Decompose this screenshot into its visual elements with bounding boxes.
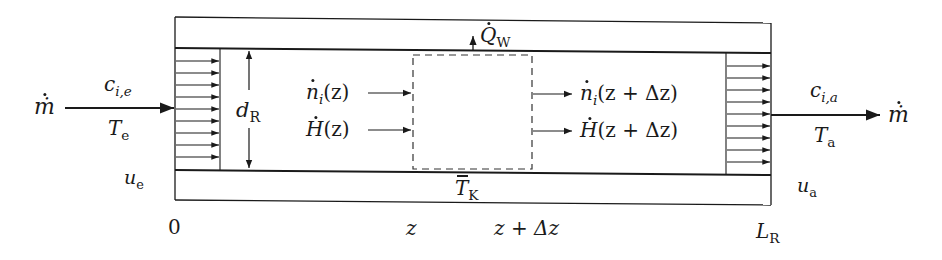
axis-origin-label: 0 bbox=[168, 217, 181, 237]
heat-flux-label: QW bbox=[480, 25, 510, 49]
inlet-concentration-label: ci,e bbox=[104, 74, 132, 98]
species-out-label: ni(z + Δz) bbox=[580, 83, 678, 107]
axis-z-plus-dz-label: z + Δz bbox=[494, 218, 559, 238]
inlet-mass-flow-label: ṁ bbox=[34, 96, 55, 118]
inner-bottom-wall bbox=[175, 170, 771, 175]
coolant-temperature-label: TK bbox=[455, 178, 479, 202]
control-volume-flux-arrows bbox=[368, 93, 572, 131]
inlet-flow-profile bbox=[176, 48, 220, 170]
outlet-temperature-label: Ta bbox=[814, 125, 835, 149]
outlet-velocity-label: ua bbox=[797, 176, 817, 199]
outer-top-wall bbox=[175, 17, 771, 23]
reactor-length-label: LR bbox=[756, 221, 780, 245]
outlet-concentration-label: ci,a bbox=[810, 80, 838, 104]
diameter-label: dR bbox=[236, 100, 260, 124]
enthalpy-in-label: H(z) bbox=[306, 119, 350, 139]
control-volume bbox=[413, 55, 532, 169]
reactor-diagram bbox=[0, 0, 942, 260]
outlet-flow-profile bbox=[726, 53, 770, 175]
species-in-label: ni(z) bbox=[306, 82, 349, 106]
outlet-mass-flow-label: ṁ bbox=[888, 104, 909, 126]
inlet-velocity-label: ue bbox=[124, 168, 144, 191]
inlet-temperature-label: Te bbox=[108, 118, 129, 142]
enthalpy-out-label: H(z + Δz) bbox=[580, 120, 678, 140]
axis-z-label: z bbox=[406, 218, 417, 238]
